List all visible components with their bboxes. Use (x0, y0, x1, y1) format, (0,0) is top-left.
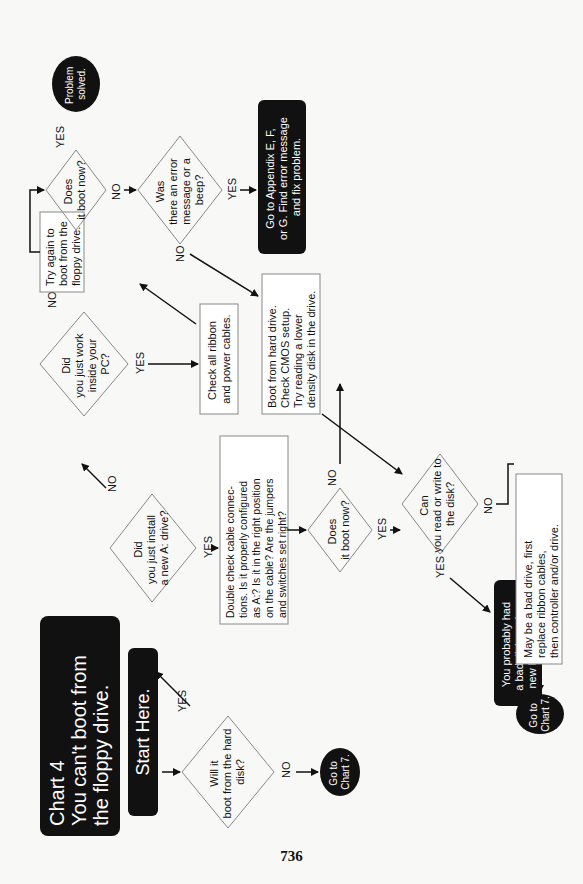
svg-text:Did you just install: Did you just install a new A: drive? (132, 510, 170, 585)
svg-text:NO: NO (110, 183, 122, 200)
start-here-label: Start Here. (133, 688, 153, 775)
svg-text:YES: YES (226, 178, 238, 200)
page: Chart 4 You can't boot from the floppy d… (0, 0, 583, 884)
svg-text:Did you just work: Did you just work inside your PC? (60, 330, 111, 397)
svg-text:Go to Chart 7.: Go to Chart 7. (528, 696, 551, 732)
svg-text:Does it boot now?: Does it boot now? (326, 500, 351, 559)
svg-text:YES: YES (434, 556, 446, 578)
svg-text:Will it boot from the ha: Will it boot from the hard disk? (208, 726, 246, 819)
svg-text:Was there an error: Was there an error message or a beep? (154, 155, 205, 225)
svg-text:Can you read or write to: Can you read or write to the disk? (418, 455, 456, 552)
svg-text:YES: YES (54, 126, 66, 148)
svg-text:NO: NO (46, 291, 58, 308)
page-number: 736 (0, 848, 583, 865)
svg-text:NO: NO (326, 469, 338, 486)
svg-text:YES: YES (202, 536, 214, 558)
svg-text:Problem solved.: Problem solved. (64, 64, 87, 104)
label-no: NO (280, 761, 292, 778)
svg-text:YES: YES (376, 518, 388, 540)
svg-text:NO: NO (106, 475, 118, 492)
svg-text:Try again to boot from t: Try again to boot from the floppy drive. (44, 218, 82, 286)
flowchart: Chart 4 You can't boot from the floppy d… (0, 0, 583, 884)
svg-text:YES: YES (134, 352, 146, 374)
svg-text:Go to Chart 7.: Go to Chart 7. (328, 754, 351, 790)
svg-text:Does it boot now?: Does it boot now? (62, 160, 87, 219)
svg-text:NO: NO (174, 245, 186, 262)
svg-text:NO: NO (482, 497, 494, 514)
